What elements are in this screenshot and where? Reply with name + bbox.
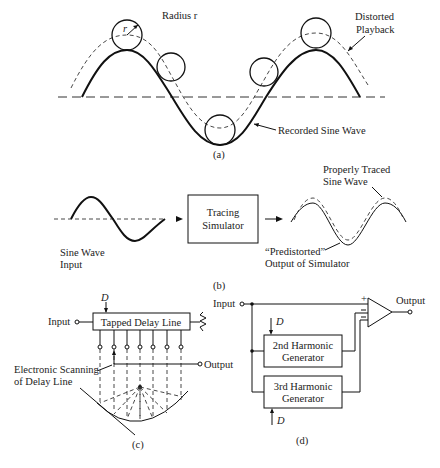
arrow-up-icon bbox=[270, 408, 274, 413]
proper-pointer bbox=[372, 187, 382, 197]
arrow-right-icon bbox=[176, 216, 183, 222]
tracing-simulator-box bbox=[188, 195, 258, 243]
input-terminal bbox=[75, 320, 79, 324]
input-terminal bbox=[240, 302, 244, 306]
gen2-output-wire bbox=[342, 313, 368, 351]
distorted-label: Distorted bbox=[355, 11, 395, 22]
tangent-line bbox=[80, 388, 135, 435]
radius-symbol: r bbox=[123, 23, 128, 34]
gen3-label-2: Generator bbox=[282, 393, 324, 404]
arrow-down-icon bbox=[104, 308, 108, 313]
recorded-label: Recorded Sine Wave bbox=[278, 125, 366, 136]
arrow-up-icon bbox=[112, 350, 116, 355]
properly-traced-wave bbox=[294, 198, 404, 240]
scan-label-2: of Delay Line bbox=[14, 376, 73, 387]
delay-line-label: Tapped Delay Line bbox=[101, 317, 182, 328]
box-label: Tracing bbox=[207, 207, 240, 218]
plus-sign: + bbox=[361, 293, 367, 304]
stylus-circle bbox=[205, 115, 235, 145]
scan-arc bbox=[97, 391, 188, 421]
predistorted-pointer bbox=[325, 243, 340, 250]
scan-label: Electronic Scanning bbox=[14, 364, 100, 375]
output-label: Output bbox=[396, 295, 425, 306]
tap-lines bbox=[98, 330, 183, 349]
predistorted-output-wave bbox=[291, 203, 406, 245]
stylus-circle bbox=[157, 53, 185, 81]
output-terminal bbox=[408, 310, 412, 314]
proper-label-2: Sine Wave bbox=[323, 176, 368, 187]
stylus-circle bbox=[301, 18, 331, 48]
panel-b: Tracing Simulator Sine Wave Input Proper… bbox=[54, 164, 406, 292]
panel-c: Input Tapped Delay Line D bbox=[14, 292, 233, 451]
radius-label: Radius r bbox=[162, 10, 198, 21]
box-label-2: Simulator bbox=[202, 220, 244, 231]
predistorted-label: “Predistorted” bbox=[265, 246, 325, 257]
stylus-circle bbox=[250, 58, 278, 86]
input-label-2: Input bbox=[60, 259, 82, 270]
caption-b: (b) bbox=[213, 280, 226, 292]
arrow-down-icon bbox=[269, 330, 273, 335]
distorted-playback-curve bbox=[71, 33, 368, 128]
input-label: Input bbox=[213, 298, 235, 309]
arrow-right-icon bbox=[276, 216, 283, 222]
distorted-label-2: Playback bbox=[356, 24, 395, 35]
summing-amplifier bbox=[368, 298, 392, 327]
delay-symbol-bottom: D bbox=[276, 415, 285, 426]
proper-label: Properly Traced bbox=[323, 164, 391, 175]
resistor-icon bbox=[200, 312, 206, 331]
gen2-label-2: Generator bbox=[282, 352, 324, 363]
diagram-canvas: r Radius r Distorted Playback Recorded S… bbox=[0, 0, 440, 468]
output-label: Output bbox=[204, 359, 233, 370]
caption-a: (a) bbox=[213, 149, 225, 161]
gen2-label: 2nd Harmonic bbox=[273, 340, 334, 351]
panel-d: Input 2nd Harmonic Generator 3rd Harmoni… bbox=[213, 293, 425, 447]
gen3-label: 3rd Harmonic bbox=[274, 381, 333, 392]
input-label: Sine Wave bbox=[60, 247, 105, 258]
scan-pointer bbox=[97, 365, 112, 371]
delay-symbol: D bbox=[100, 292, 109, 303]
arrow-head-icon bbox=[254, 123, 259, 127]
input-label: Input bbox=[48, 316, 70, 327]
caption-d: (d) bbox=[296, 435, 309, 447]
delay-symbol-top: D bbox=[275, 316, 284, 327]
caption-c: (c) bbox=[132, 439, 144, 451]
panel-a: r Radius r Distorted Playback Recorded S… bbox=[58, 10, 395, 161]
predistorted-label-2: Output of Simulator bbox=[265, 258, 350, 269]
output-terminal bbox=[198, 362, 202, 366]
